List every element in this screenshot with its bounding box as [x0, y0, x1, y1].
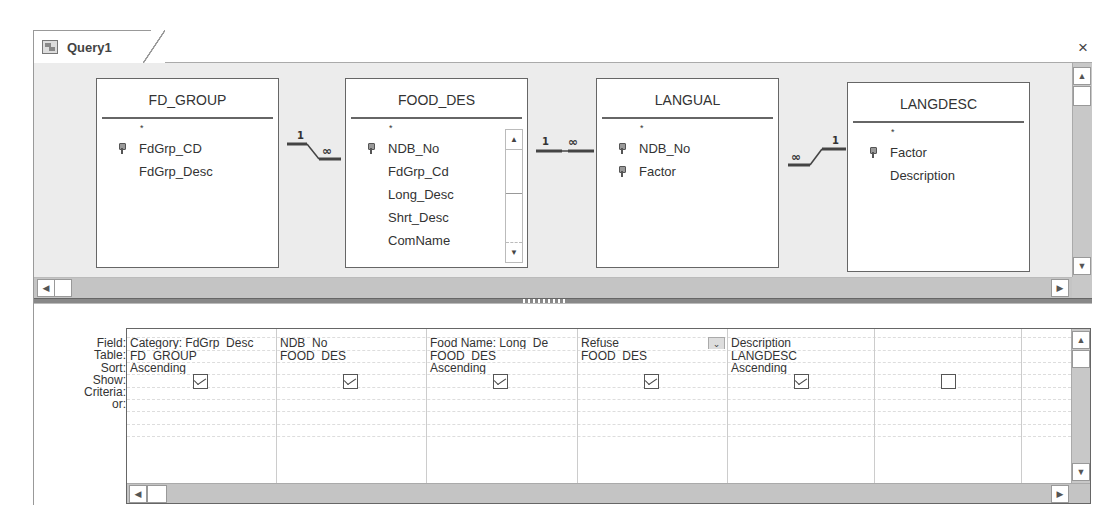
table-food-des[interactable]: FOOD_DES * NDB_No FdGrp_Cd Long_Desc Shr…: [345, 78, 528, 268]
sort-cell[interactable]: [578, 362, 727, 374]
join-line-fdgroup-fooddes[interactable]: 1 ∞: [285, 129, 345, 169]
scroll-left-icon[interactable]: ◀: [129, 485, 147, 503]
one-label: 1: [832, 135, 839, 146]
field-ndb-no[interactable]: NDB_No: [346, 137, 527, 160]
scroll-thumb[interactable]: [506, 150, 522, 194]
query-design-grid-pane: Field: Table: Sort: Show: Criteria: or: …: [34, 304, 1092, 505]
scroll-thumb[interactable]: [1073, 86, 1091, 106]
field-all[interactable]: *: [97, 123, 278, 137]
field-factor[interactable]: Factor: [848, 141, 1029, 164]
field-long-desc[interactable]: Long_Desc: [346, 183, 527, 206]
table-cell[interactable]: FD_GROUP: [127, 350, 276, 362]
scroll-down-icon[interactable]: ▼: [1072, 463, 1090, 481]
grid-row-labels: Field: Table: Sort: Show: Criteria: or:: [34, 337, 126, 411]
join-line-fooddes-langual[interactable]: 1 ∞: [534, 133, 598, 163]
show-checkbox[interactable]: [193, 374, 208, 389]
one-label: 1: [297, 130, 304, 141]
field-fdgrp-cd[interactable]: FdGrp_Cd: [346, 160, 527, 183]
row-label-table: Table:: [34, 349, 126, 361]
scroll-down-icon[interactable]: ▼: [1073, 257, 1091, 275]
grid-horizontal-scrollbar[interactable]: ◀ ▶: [127, 483, 1090, 503]
field-cell[interactable]: Category: FdGrp_Desc: [127, 337, 276, 349]
scroll-thumb[interactable]: [54, 279, 72, 297]
field-all[interactable]: *: [848, 127, 1029, 141]
show-checkbox[interactable]: [493, 374, 508, 389]
grid-column[interactable]: Food Name: Long_De FOOD_DES Ascending: [427, 329, 578, 483]
field-cell[interactable]: Description: [728, 337, 874, 349]
field-all[interactable]: *: [346, 123, 527, 137]
many-label: ∞: [791, 150, 801, 164]
field-label: Factor: [890, 145, 927, 160]
sort-cell[interactable]: Ascending: [427, 362, 577, 374]
table-langdesc[interactable]: LANGDESC * Factor Description: [847, 82, 1030, 272]
grid-column[interactable]: NDB_No FOOD_DES: [277, 329, 427, 483]
table-diagram-pane: FD_GROUP * FdGrp_CD FdGrp_Desc 1 ∞ FOOD_…: [34, 63, 1072, 277]
primary-key-icon: [368, 143, 373, 154]
row-label-or: or:: [34, 398, 126, 410]
field-value: Refuse: [581, 337, 619, 349]
sort-cell[interactable]: Ascending: [728, 362, 874, 374]
field-cell[interactable]: [875, 337, 1021, 349]
scroll-right-icon[interactable]: ▶: [1051, 279, 1069, 297]
diagram-vertical-scrollbar[interactable]: ▲ ▼: [1072, 63, 1092, 277]
table-fd-group[interactable]: FD_GROUP * FdGrp_CD FdGrp_Desc: [96, 78, 279, 268]
table-cell[interactable]: FOOD_DES: [427, 350, 577, 362]
design-grid: Category: FdGrp_Desc FD_GROUP Ascending …: [126, 328, 1091, 504]
field-fdgrp-desc[interactable]: FdGrp_Desc: [97, 160, 278, 183]
field-cell[interactable]: NDB_No: [277, 337, 426, 349]
scroll-thumb[interactable]: [147, 485, 167, 503]
field-fdgrp-cd[interactable]: FdGrp_CD: [97, 137, 278, 160]
scroll-up-icon[interactable]: ▲: [506, 130, 522, 150]
field-factor[interactable]: Factor: [597, 160, 778, 183]
field-label: NDB_No: [388, 141, 439, 156]
field-all[interactable]: *: [597, 123, 778, 137]
close-icon[interactable]: ×: [1078, 38, 1088, 58]
sort-cell[interactable]: [277, 362, 426, 374]
scroll-down-icon[interactable]: ▼: [506, 242, 522, 262]
show-checkbox[interactable]: [794, 374, 809, 389]
sort-cell[interactable]: [875, 362, 1021, 374]
field-label: NDB_No: [639, 141, 690, 156]
document-tab-strip: Query1 ×: [33, 30, 1092, 63]
table-title: LANGDESC: [848, 83, 1029, 121]
splitter-grip[interactable]: [523, 299, 567, 303]
scroll-right-icon[interactable]: ▶: [1051, 485, 1069, 503]
table-cell[interactable]: FOOD_DES: [578, 350, 727, 362]
scroll-up-icon[interactable]: ▲: [1072, 331, 1090, 349]
field-cell[interactable]: Food Name: Long_De: [427, 337, 577, 349]
grid-column[interactable]: [1022, 329, 1071, 483]
field-ndb-no[interactable]: NDB_No: [597, 137, 778, 160]
grid-column[interactable]: Refuse ⌄ FOOD_DES: [578, 329, 728, 483]
scroll-thumb[interactable]: [1072, 350, 1090, 368]
field-comname[interactable]: ComName: [346, 229, 527, 252]
many-label: ∞: [568, 135, 578, 149]
field-shrt-desc[interactable]: Shrt_Desc: [346, 206, 527, 229]
table-cell[interactable]: FOOD_DES: [277, 350, 426, 362]
join-line-langual-langdesc[interactable]: ∞ 1: [786, 133, 850, 173]
tab-query1[interactable]: Query1: [33, 30, 151, 63]
chevron-down-icon[interactable]: ⌄: [708, 337, 725, 349]
sort-cell[interactable]: Ascending: [127, 362, 276, 374]
scrollbar-corner: [1072, 277, 1092, 298]
table-langual[interactable]: LANGUAL * NDB_No Factor: [596, 78, 779, 268]
field-label: Factor: [639, 164, 676, 179]
grid-column[interactable]: Category: FdGrp_Desc FD_GROUP Ascending: [127, 329, 277, 483]
grid-column[interactable]: Description LANGDESC Ascending: [728, 329, 875, 483]
grid-vertical-scrollbar[interactable]: ▲ ▼: [1071, 329, 1090, 483]
table-title: LANGUAL: [597, 79, 778, 117]
table-cell[interactable]: LANGDESC: [728, 350, 874, 362]
field-label: FdGrp_CD: [139, 141, 202, 156]
scroll-up-icon[interactable]: ▲: [1073, 67, 1091, 85]
scroll-left-icon[interactable]: ◀: [37, 279, 55, 297]
one-label: 1: [542, 136, 549, 147]
diagram-horizontal-scrollbar[interactable]: ◀ ▶: [34, 277, 1072, 298]
query-design-window: FD_GROUP * FdGrp_CD FdGrp_Desc 1 ∞ FOOD_…: [33, 63, 1092, 505]
show-checkbox[interactable]: [343, 374, 358, 389]
grid-column[interactable]: [875, 329, 1022, 483]
field-description[interactable]: Description: [848, 164, 1029, 187]
show-checkbox[interactable]: [644, 374, 659, 389]
table-field-scrollbar[interactable]: ▲ ▼: [505, 129, 523, 263]
show-checkbox[interactable]: [941, 374, 956, 389]
table-cell[interactable]: [875, 350, 1021, 362]
field-cell[interactable]: Refuse ⌄: [578, 337, 727, 349]
